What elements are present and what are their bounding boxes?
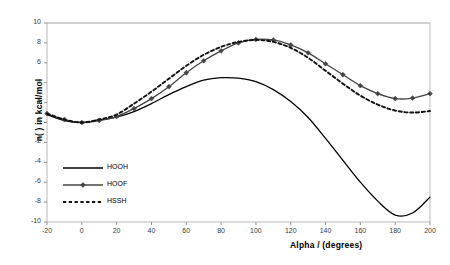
x-tick-label: 120	[278, 227, 304, 234]
chart-container: n( ) in kcal/mol Alpha / (degrees) -10-8…	[0, 0, 450, 265]
x-tick-label: 40	[138, 227, 164, 234]
legend-item-hssh: HSSH	[107, 197, 126, 204]
x-axis-title: Alpha / (degrees)	[290, 240, 362, 250]
x-tick-label: 80	[208, 227, 234, 234]
y-tick-label: -6	[21, 177, 41, 184]
x-tick-label: 0	[69, 227, 95, 234]
y-tick-label: 6	[21, 58, 41, 65]
x-tick-label: 100	[243, 227, 269, 234]
plot-frame	[47, 23, 430, 222]
x-tick-label: 20	[104, 227, 130, 234]
plot-background	[47, 23, 430, 222]
y-tick-label: 10	[21, 18, 41, 25]
y-tick-label: 0	[21, 118, 41, 125]
legend-item-hooh: HOOH	[107, 163, 128, 170]
y-tick-label: -4	[21, 157, 41, 164]
x-tick-label: 60	[173, 227, 199, 234]
x-tick-label: 200	[417, 227, 443, 234]
y-tick-label: 2	[21, 98, 41, 105]
y-tick-label: -10	[21, 217, 41, 224]
chart-plot-svg	[0, 0, 450, 265]
y-tick-label: 4	[21, 78, 41, 85]
legend-item-hoof: HOOF	[107, 180, 127, 187]
y-axis-title: n( ) in kcal/mol	[34, 30, 44, 190]
x-tick-label: 140	[313, 227, 339, 234]
x-tick-label: 180	[382, 227, 408, 234]
y-tick-label: -8	[21, 197, 41, 204]
y-tick-label: 8	[21, 38, 41, 45]
y-tick-label: -2	[21, 137, 41, 144]
x-tick-label: -20	[34, 227, 60, 234]
x-tick-label: 160	[347, 227, 373, 234]
